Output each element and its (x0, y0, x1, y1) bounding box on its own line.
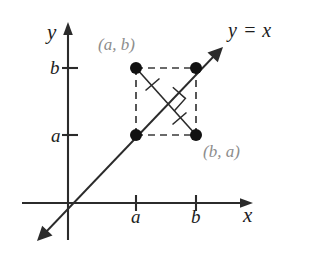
x-tick-label-b: b (191, 207, 201, 226)
reflection-diagram: y x b a a b y = x (a, b) (b, a) (0, 0, 309, 273)
y-tick-label-a: a (51, 126, 61, 145)
point-ba-label: (b, a) (203, 143, 240, 160)
y-axis-arrowhead (63, 22, 73, 35)
y-axis-label: y (47, 22, 56, 43)
line-equation-label: y = x (228, 20, 272, 40)
reflection-segment (136, 68, 196, 135)
point-ab-dot (130, 62, 142, 74)
reflection-segment-group (136, 68, 196, 135)
point-ab-label: (a, b) (98, 36, 135, 53)
point-bb-dot (190, 62, 202, 74)
point-ba-dot (190, 129, 202, 141)
x-axis-label: x (243, 205, 252, 226)
y-equals-x-line (45, 55, 215, 233)
y-tick-label-b: b (50, 58, 60, 77)
x-tick-label-a: a (131, 207, 141, 226)
right-angle-marker (173, 87, 186, 111)
point-aa-dot (130, 129, 142, 141)
